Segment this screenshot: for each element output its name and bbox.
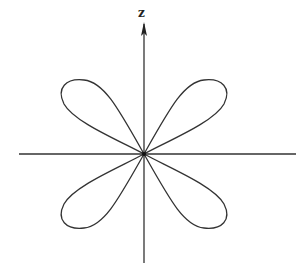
diagram-canvas: z [0, 0, 307, 278]
z-axis-label: z [138, 6, 145, 20]
lobe-lower-right [144, 154, 227, 228]
lobe-upper-left [61, 80, 144, 154]
origin-point [142, 152, 146, 156]
lobe-upper-right [144, 80, 227, 154]
lobe-lower-left [61, 154, 144, 228]
orbital-plot [0, 0, 307, 278]
